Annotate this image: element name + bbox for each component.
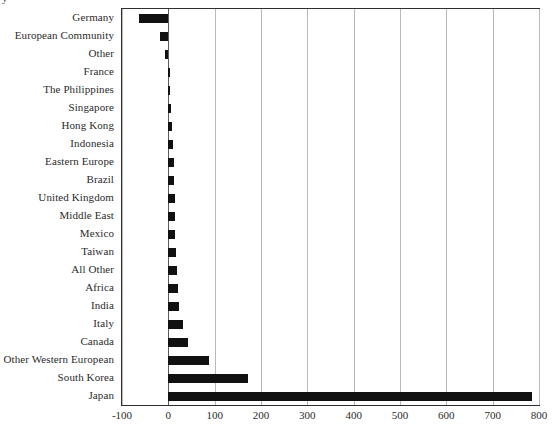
bar xyxy=(168,320,183,329)
bar-series xyxy=(122,9,539,405)
category-label: Germany xyxy=(0,11,114,23)
bar xyxy=(168,230,175,239)
bar xyxy=(168,302,179,311)
bar xyxy=(168,392,532,401)
bar xyxy=(139,14,168,23)
category-label: Africa xyxy=(0,281,114,293)
bar xyxy=(168,284,178,293)
x-tick-label: 300 xyxy=(299,408,316,422)
category-label: France xyxy=(0,65,114,77)
category-label: Brazil xyxy=(0,173,114,185)
category-label: Middle East xyxy=(0,209,114,221)
clipped-title-text: y xyxy=(2,0,8,4)
bar xyxy=(168,104,170,113)
bar xyxy=(168,266,176,275)
bar-chart: y GermanyEuropean CommunityOtherFranceTh… xyxy=(0,0,552,428)
category-label: Canada xyxy=(0,335,114,347)
bar xyxy=(160,32,168,41)
bar xyxy=(168,122,172,131)
x-tick-label: 700 xyxy=(484,408,501,422)
category-label: Eastern Europe xyxy=(0,155,114,167)
category-label: Taiwan xyxy=(0,245,114,257)
category-label: Indonesia xyxy=(0,137,114,149)
category-label: European Community xyxy=(0,29,114,41)
category-label: The Philippines xyxy=(0,83,114,95)
bar xyxy=(168,338,188,347)
bar xyxy=(168,140,173,149)
x-tick-label: 800 xyxy=(531,408,548,422)
x-tick-label: 0 xyxy=(166,408,172,422)
bar xyxy=(168,194,174,203)
category-label: Singapore xyxy=(0,101,114,113)
x-tick-label: 600 xyxy=(438,408,455,422)
category-label: Mexico xyxy=(0,227,114,239)
category-label: Japan xyxy=(0,389,114,401)
category-label: United Kingdom xyxy=(0,191,114,203)
value-axis-ticks: -1000100200300400500600700800 xyxy=(121,408,540,424)
plot-area xyxy=(121,8,540,406)
bar xyxy=(168,68,170,77)
x-tick-label: 100 xyxy=(206,408,223,422)
category-label: India xyxy=(0,299,114,311)
category-label: Italy xyxy=(0,317,114,329)
bar xyxy=(168,248,175,257)
bar xyxy=(168,158,174,167)
category-label: Other Western European xyxy=(0,353,114,365)
gridline-800 xyxy=(539,9,540,405)
bar xyxy=(168,374,248,383)
x-tick-label: -100 xyxy=(112,408,132,422)
category-axis-labels: GermanyEuropean CommunityOtherFranceThe … xyxy=(0,8,118,406)
category-label: Hong Kong xyxy=(0,119,114,131)
category-label: Other xyxy=(0,47,114,59)
x-tick-label: 400 xyxy=(345,408,362,422)
bar xyxy=(165,50,169,59)
bar xyxy=(168,86,170,95)
x-tick-label: 200 xyxy=(253,408,270,422)
category-label: All Other xyxy=(0,263,114,275)
bar xyxy=(168,212,174,221)
category-label: South Korea xyxy=(0,371,114,383)
clipped-chart-title: y xyxy=(0,0,552,5)
bar xyxy=(168,356,209,365)
x-tick-label: 500 xyxy=(392,408,409,422)
bar xyxy=(168,176,174,185)
